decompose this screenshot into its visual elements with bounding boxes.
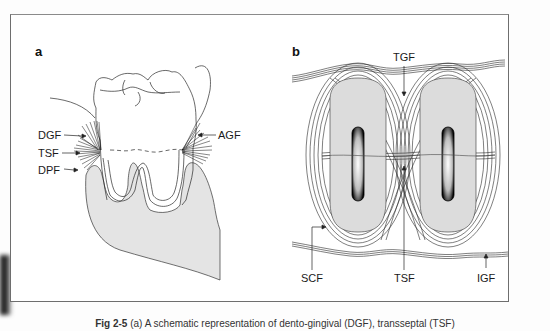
label-tgf: TGF [393, 52, 415, 63]
figure-illustration [0, 0, 550, 331]
label-tsf-b: TSF [394, 273, 415, 284]
label-dpf: DPF [38, 165, 60, 176]
caption-text: (a) A schematic representation of dento-… [130, 318, 455, 329]
panel-a-label: a [35, 44, 42, 59]
panel-b-label: b [292, 44, 300, 59]
figure-caption: Fig 2-5 (a) A schematic representation o… [0, 318, 550, 329]
label-dgf: DGF [38, 130, 61, 141]
label-scf: SCF [301, 273, 323, 284]
caption-number: Fig 2-5 [95, 318, 127, 329]
panel-b-drawing [292, 60, 508, 270]
label-tsf-a: TSF [38, 148, 59, 159]
panel-a-drawing [50, 66, 220, 280]
label-agf: AGF [218, 130, 241, 141]
label-igf: IGF [477, 273, 495, 284]
